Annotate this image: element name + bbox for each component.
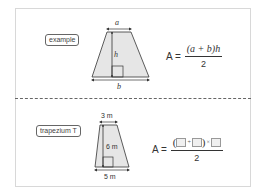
- answer-box-bottom-side[interactable]: [192, 138, 202, 147]
- times-sign: ×: [206, 139, 209, 145]
- close-paren: ): [202, 136, 206, 148]
- fraction-bar: [171, 150, 223, 151]
- formula-numerator: ( + ) ×: [171, 136, 223, 148]
- plus-sign: +: [187, 139, 190, 145]
- formula-lhs: A =: [152, 144, 167, 155]
- formula-denominator: 2: [194, 153, 199, 163]
- trapezium-t-top-label: 3 m: [101, 112, 113, 119]
- trapezium-t-diagram: [0, 0, 266, 195]
- trapezium-t-bottom-label: 5 m: [104, 173, 116, 180]
- formula-fraction: ( + ) × 2: [171, 136, 223, 163]
- trapezium-t-formula: A = ( + ) × 2: [152, 136, 223, 163]
- trapezium-t-height-label: 6 m: [106, 143, 118, 150]
- answer-box-height[interactable]: [211, 138, 221, 147]
- answer-box-top-side[interactable]: [176, 138, 186, 147]
